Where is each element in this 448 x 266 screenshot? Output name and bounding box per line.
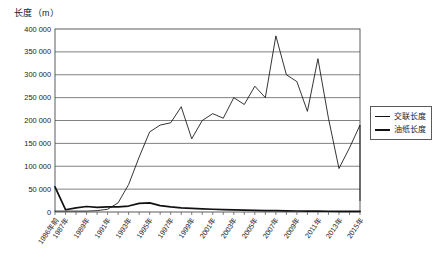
x-axis-tick-label: 2015年 [345,216,365,240]
chart-legend: 交联长度 油纸长度 [370,106,432,140]
y-axis-tick-label: 400 000 [24,25,51,34]
y-axis-tick-label: 300 000 [24,70,51,79]
y-axis-tick-label: 350 000 [24,47,51,56]
x-axis-tick-label: 1997年 [156,216,176,240]
x-axis-tick-labels: 1986年前1987年1989年1991年1993年1995年1997年1999… [36,216,365,246]
y-axis-tick-label: 150 000 [24,139,51,148]
x-axis-tick-label: 2001年 [198,216,218,240]
x-axis-tick-label: 2009年 [282,216,302,240]
y-axis-tick-labels: 400 000350 000300 000250 000200 000150 0… [24,25,51,217]
x-axis-tick-label: 2005年 [240,216,260,240]
x-axis-tick-label: 2007年 [261,216,281,240]
legend-swatch-thick [375,129,390,131]
y-axis-tick-label: 200 000 [24,116,51,125]
legend-item-1: 油纸长度 [375,123,426,136]
legend-label-1: 油纸长度 [394,126,426,134]
x-axis-tick-label: 1999年 [177,216,197,240]
legend-label-0: 交联长度 [394,113,426,121]
x-axis-tick-label: 1991年 [92,216,112,240]
gridlines-group [55,52,360,189]
data-series-group [55,36,360,212]
legend-item-0: 交联长度 [375,110,426,123]
x-axis-tick-label: 1993年 [113,216,133,240]
x-axis-tick-label: 1995年 [134,216,154,240]
x-axis-tick-label: 2003年 [219,216,239,240]
data-series-line-0 [55,36,360,211]
legend-swatch-thin [375,116,390,117]
y-axis-tick-label: 100 000 [24,162,51,171]
y-axis-tick-label: 250 000 [24,93,51,102]
y-axis-tick-label: 0 [47,208,51,217]
x-axis-tick-label: 1989年 [71,216,91,240]
x-axis-tick-label: 2013年 [324,216,344,240]
y-axis-tick-label: 50 000 [28,185,51,194]
chart-root: 长度（m） 400 000350 000300 000250 000200 00… [0,0,448,266]
x-axis-tick-label: 2011年 [303,216,323,240]
data-series-line-1 [55,187,360,212]
